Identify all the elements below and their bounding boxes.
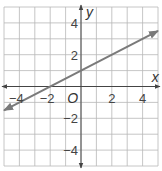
x-tick-label: −4: [9, 91, 24, 106]
y-tick-label: −2: [63, 111, 78, 126]
y-axis-label: y: [85, 4, 94, 20]
y-tick-label: 4: [71, 16, 78, 31]
x-tick-label: 4: [139, 91, 146, 106]
y-tick-label: 2: [71, 48, 78, 63]
coordinate-plane: −4−22442−2−4 x y O: [0, 0, 162, 171]
x-tick-label: −2: [40, 91, 55, 106]
origin-label: O: [67, 90, 78, 106]
x-tick-label: 2: [108, 91, 115, 106]
x-axis-label: x: [151, 69, 160, 85]
y-tick-label: −4: [63, 143, 78, 158]
